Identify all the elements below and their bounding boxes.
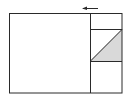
left-arrow-icon <box>82 7 98 11</box>
diagram-canvas <box>0 0 130 99</box>
